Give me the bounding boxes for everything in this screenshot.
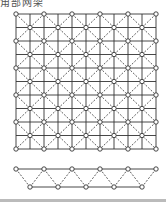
- lower-node: [140, 79, 144, 83]
- lower-node: [140, 25, 144, 29]
- upper-node: [154, 93, 158, 97]
- lower-node: [84, 79, 88, 83]
- upper-node: [14, 120, 18, 124]
- upper-node: [98, 147, 102, 151]
- elevation-web-member: [16, 169, 30, 187]
- lower-node: [28, 106, 32, 110]
- lower-node: [56, 79, 60, 83]
- elevation-web-member: [30, 169, 44, 187]
- elevation-web-member: [142, 169, 156, 187]
- lower-node: [112, 106, 116, 110]
- upper-node: [126, 39, 130, 43]
- lower-node: [112, 79, 116, 83]
- upper-node: [70, 147, 74, 151]
- upper-node: [98, 39, 102, 43]
- elevation-top-node: [70, 167, 74, 171]
- lower-node: [28, 79, 32, 83]
- upper-node: [154, 39, 158, 43]
- upper-node: [42, 120, 46, 124]
- upper-node: [126, 93, 130, 97]
- elevation-web-member: [72, 169, 86, 187]
- elevation-top-node: [14, 167, 18, 171]
- elevation-bottom-node: [56, 185, 60, 189]
- elevation-web-member: [128, 169, 142, 187]
- lower-node: [56, 133, 60, 137]
- upper-node: [70, 12, 74, 16]
- upper-node: [42, 93, 46, 97]
- upper-node: [154, 120, 158, 124]
- upper-node: [14, 12, 18, 16]
- elevation-bottom-node: [140, 185, 144, 189]
- lower-node: [84, 52, 88, 56]
- lower-node: [112, 133, 116, 137]
- lower-node: [84, 106, 88, 110]
- upper-node: [42, 147, 46, 151]
- lower-node: [140, 52, 144, 56]
- elevation-top-node: [154, 167, 158, 171]
- space-truss-diagram: [0, 0, 166, 202]
- lower-node: [140, 106, 144, 110]
- lower-node: [112, 52, 116, 56]
- upper-node: [70, 93, 74, 97]
- upper-node: [14, 147, 18, 151]
- elevation-bottom-node: [28, 185, 32, 189]
- upper-node: [126, 147, 130, 151]
- upper-node: [14, 39, 18, 43]
- upper-node: [42, 66, 46, 70]
- upper-node: [42, 39, 46, 43]
- upper-node: [154, 147, 158, 151]
- upper-node: [98, 93, 102, 97]
- elevation-bottom-node: [112, 185, 116, 189]
- upper-node: [42, 12, 46, 16]
- upper-node: [98, 66, 102, 70]
- elevation-web-member: [114, 169, 128, 187]
- lower-node: [28, 52, 32, 56]
- lower-node: [112, 25, 116, 29]
- upper-node: [126, 120, 130, 124]
- lower-node: [56, 25, 60, 29]
- lower-node: [56, 106, 60, 110]
- elevation-top-node: [126, 167, 130, 171]
- lower-node: [56, 52, 60, 56]
- upper-node: [98, 120, 102, 124]
- elevation-web-member: [86, 169, 100, 187]
- elevation-web-member: [100, 169, 114, 187]
- elevation-bottom-node: [84, 185, 88, 189]
- lower-node: [28, 25, 32, 29]
- upper-node: [154, 12, 158, 16]
- lower-node: [140, 133, 144, 137]
- elevation-web-member: [44, 169, 58, 187]
- upper-node: [126, 66, 130, 70]
- upper-node: [70, 66, 74, 70]
- lower-node: [84, 25, 88, 29]
- upper-node: [126, 12, 130, 16]
- upper-node: [98, 12, 102, 16]
- bottom-divider: [0, 199, 166, 202]
- upper-node: [70, 120, 74, 124]
- upper-node: [14, 93, 18, 97]
- elevation-top-node: [42, 167, 46, 171]
- lower-node: [84, 133, 88, 137]
- elevation-top-node: [98, 167, 102, 171]
- elevation-web-member: [58, 169, 72, 187]
- upper-node: [154, 66, 158, 70]
- upper-node: [14, 66, 18, 70]
- upper-node: [70, 39, 74, 43]
- lower-node: [28, 133, 32, 137]
